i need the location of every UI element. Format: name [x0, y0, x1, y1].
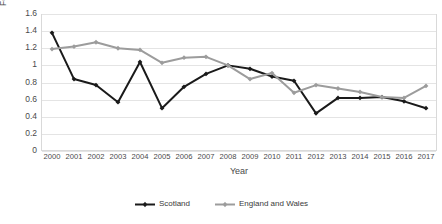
legend-item[interactable]: England and Wales	[214, 200, 308, 209]
x-axis-tick-labels: 2000200120022003200420052006200720082009…	[41, 153, 437, 165]
gridline	[42, 48, 436, 49]
gridline	[42, 134, 436, 135]
chart-legend: ScotlandEngland and Wales	[0, 196, 442, 212]
legend-label: England and Wales	[239, 200, 308, 208]
x-axis-tick: 2015	[374, 153, 391, 161]
y-axis-tick: 1.6	[0, 9, 37, 18]
gridline	[42, 14, 436, 15]
x-axis-tick: 2012	[308, 153, 325, 161]
x-axis-tick: 2000	[44, 153, 61, 161]
x-axis-tick: 2013	[330, 153, 347, 161]
y-axis-tick: 0.8	[0, 78, 37, 87]
gridline	[42, 83, 436, 84]
x-axis-tick: 2011	[286, 153, 302, 161]
gridline	[42, 31, 436, 32]
gridline	[42, 100, 436, 101]
x-axis-tick: 2003	[110, 153, 127, 161]
x-axis-tick: 2004	[132, 153, 149, 161]
gridline	[42, 117, 436, 118]
x-axis-tick: 2016	[396, 153, 413, 161]
female-homicide-rate-line-chart: Female homicide rate 00.20.40.60.811.21.…	[0, 0, 442, 224]
x-axis-tick: 2005	[154, 153, 171, 161]
x-axis-tick: 2014	[352, 153, 369, 161]
plot-area	[41, 14, 437, 151]
x-axis-tick: 2007	[198, 153, 215, 161]
x-axis-tick: 2001	[66, 153, 83, 161]
y-axis-tick: 0.6	[0, 95, 37, 104]
x-axis-tick: 2017	[418, 153, 435, 161]
y-axis-tick: 0.2	[0, 129, 37, 138]
y-axis-tick: 0	[0, 146, 37, 155]
gridline	[42, 65, 436, 66]
legend-swatch-icon	[134, 200, 156, 209]
y-axis-tick: 0.4	[0, 112, 37, 121]
x-axis-tick: 2010	[264, 153, 281, 161]
x-axis-tick: 2009	[242, 153, 259, 161]
legend-item[interactable]: Scotland	[134, 200, 190, 209]
x-axis-tick: 2008	[220, 153, 237, 161]
y-axis-tick: 1.4	[0, 26, 37, 35]
legend-label: Scotland	[159, 200, 190, 208]
legend-swatch-icon	[214, 200, 236, 209]
y-axis-tick: 1.2	[0, 43, 37, 52]
y-axis-tick: 1	[0, 60, 37, 69]
x-axis-title: Year	[41, 166, 437, 176]
x-axis-tick: 2006	[176, 153, 193, 161]
x-axis-tick: 2002	[88, 153, 105, 161]
